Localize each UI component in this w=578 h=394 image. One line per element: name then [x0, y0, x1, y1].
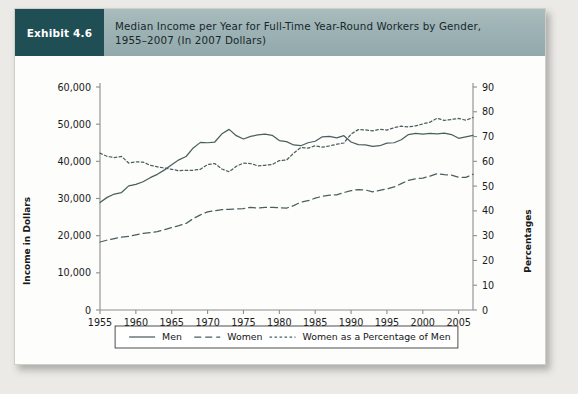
legend-label: Men	[162, 331, 182, 342]
y-axis-right-tick-label: 90	[482, 82, 494, 93]
legend-label: Women	[227, 331, 262, 342]
y-axis-left-tick-label: 0	[85, 305, 91, 316]
y-axis-right-tick-label: 40	[482, 205, 494, 216]
exhibit-number-label: Exhibit 4.6	[27, 27, 93, 39]
y-axis-right-tick-label: 0	[482, 305, 488, 316]
series-line-women-as-a-percentage-of-men	[100, 117, 473, 171]
y-axis-right-tick-label: 80	[482, 106, 494, 117]
y-axis-left: 010,00020,00030,00040,00050,00060,000	[57, 82, 100, 316]
y-axis-left-tick-label: 30,000	[57, 193, 91, 204]
y-axis-right-tick-label: 60	[482, 156, 494, 167]
x-axis-tick-label: 1955	[88, 317, 112, 328]
exhibit-card: Exhibit 4.6 Median Income per Year for F…	[14, 8, 546, 365]
y-axis-left-tick-label: 50,000	[57, 119, 91, 130]
y-axis-right-tick-label: 30	[482, 230, 494, 241]
exhibit-title: Median Income per Year for Full-Time Yea…	[104, 9, 545, 56]
x-axis: 1955196019651970197519801985199019952000…	[88, 310, 473, 328]
y-axis-right-tick-label: 70	[482, 131, 494, 142]
y-axis-right: 0102030405060708090	[473, 82, 494, 316]
y-axis-left-tick-label: 40,000	[57, 156, 91, 167]
y-axis-right-tick-label: 10	[482, 280, 494, 291]
y-axis-left-tick-label: 10,000	[57, 267, 91, 278]
chart-area: 010,00020,00030,00040,00050,00060,000 01…	[15, 56, 545, 364]
exhibit-page: Exhibit 4.6 Median Income per Year for F…	[0, 0, 578, 394]
legend-label: Women as a Percentage of Men	[303, 331, 451, 342]
series-line-women	[100, 174, 473, 242]
y-axis-right-title: Percentages	[523, 209, 533, 272]
exhibit-number-badge: Exhibit 4.6	[15, 9, 104, 56]
y-axis-left-tick-label: 20,000	[57, 230, 91, 241]
chart-series-group	[100, 117, 473, 242]
exhibit-title-text: Median Income per Year for Full-Time Yea…	[115, 19, 481, 47]
exhibit-header: Exhibit 4.6 Median Income per Year for F…	[15, 9, 545, 56]
y-axis-left-tick-label: 60,000	[57, 82, 91, 93]
y-axis-right-tick-label: 20	[482, 255, 494, 266]
y-axis-left-title: Income in Dollars	[22, 197, 32, 285]
line-chart: 010,00020,00030,00040,00050,00060,000 01…	[15, 56, 545, 364]
exhibit-title-line-1: Median Income per Year for Full-Time Yea…	[115, 20, 481, 32]
chart-legend: MenWomenWomen as a Percentage of Men	[115, 326, 458, 348]
y-axis-right-tick-label: 50	[482, 181, 494, 192]
exhibit-title-line-2: 1955–2007 (In 2007 Dollars)	[115, 34, 266, 46]
